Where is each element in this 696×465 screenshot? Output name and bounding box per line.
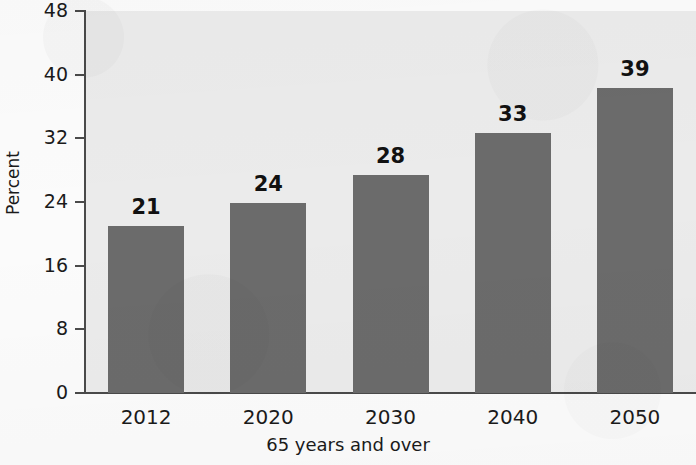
x-tick-label: 2050 [575, 407, 695, 427]
y-tick-label: 40 [0, 65, 68, 84]
bar [475, 133, 551, 393]
bar-value-label: 28 [351, 146, 431, 167]
y-tick-mark [75, 10, 84, 12]
bar-value-label: 24 [228, 174, 308, 195]
bar-value-label: 39 [595, 59, 675, 80]
bar-chart-figure: 081624324048 2124283339 2012202020302040… [0, 0, 696, 465]
y-tick-mark [75, 265, 84, 267]
y-tick-label: 16 [0, 256, 68, 275]
y-tick-label: 8 [0, 319, 68, 338]
bar-value-label: 33 [473, 104, 553, 125]
x-tick-label: 2020 [208, 407, 328, 427]
y-tick-mark [75, 74, 84, 76]
y-axis-title: Percent [3, 123, 23, 243]
bar [108, 226, 184, 393]
bar-value-label: 21 [106, 197, 186, 218]
bar [353, 175, 429, 393]
y-axis-spine [84, 10, 86, 394]
y-tick-label: 48 [0, 1, 68, 20]
y-tick-mark [75, 392, 84, 394]
x-tick-label: 2012 [86, 407, 206, 427]
bar [597, 88, 673, 393]
y-tick-label: 0 [0, 383, 68, 402]
x-tick-label: 2040 [453, 407, 573, 427]
y-tick-mark [75, 328, 84, 330]
y-tick-mark [75, 137, 84, 139]
x-tick-label: 2030 [331, 407, 451, 427]
y-tick-mark [75, 201, 84, 203]
bar [230, 203, 306, 393]
x-axis-title: 65 years and over [0, 434, 696, 455]
